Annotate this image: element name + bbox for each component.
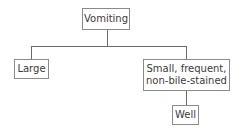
node-small-label-line2: non-bile-stained bbox=[146, 75, 227, 87]
node-vomiting-label: Vomiting bbox=[84, 13, 128, 25]
connector-to-large bbox=[31, 46, 32, 59]
node-well-label: Well bbox=[175, 109, 196, 121]
connector-horizontal bbox=[31, 46, 187, 47]
node-large-label: Large bbox=[17, 63, 45, 75]
node-vomiting: Vomiting bbox=[82, 8, 130, 30]
node-large: Large bbox=[14, 59, 49, 79]
connector-to-small bbox=[186, 46, 187, 59]
connector-root-down bbox=[107, 30, 108, 46]
node-small-frequent: Small, frequent, non-bile-stained bbox=[143, 59, 230, 91]
connector-to-well bbox=[186, 91, 187, 105]
node-well: Well bbox=[172, 105, 199, 125]
node-small-label-line1: Small, frequent, bbox=[147, 63, 227, 75]
